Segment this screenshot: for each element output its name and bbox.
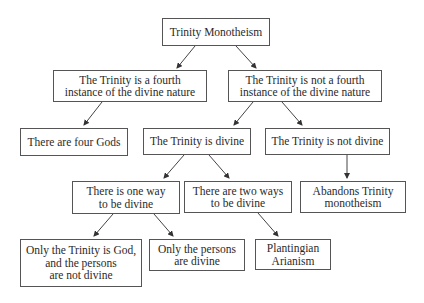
node-label: The Trinity is divine [150,135,244,148]
node-two-ways: There are two ways to be divine [184,181,292,213]
edge-root-fourth [177,46,195,68]
node-label: The Trinity is not divine [272,135,384,148]
node-trinity-divine: The Trinity is divine [143,128,251,155]
node-label: There is one way to be divine [87,185,166,210]
node-label: Trinity Monotheism [170,26,263,39]
edge-oneway-onlytrinity [94,214,113,236]
node-one-way: There is one way to be divine [72,181,180,214]
node-trinity-not-divine: The Trinity is not divine [265,128,390,155]
edge-divine-oneway [164,155,184,178]
edge-root-notfourth [236,46,256,68]
node-only-persons: Only the persons are divine [149,239,245,271]
node-plantingian: Plantingian Arianism [255,239,331,270]
node-label: Plantingian Arianism [267,242,319,267]
node-label: Only the Trinity is God, and the persons… [26,244,136,282]
node-abandons: Abandons Trinity monotheism [300,181,406,213]
edge-twoways-plantingian [258,213,278,236]
edge-fourth-fourgods [84,102,102,125]
edge-divine-twoways [209,155,229,178]
node-trinity-monotheism: Trinity Monotheism [162,18,270,46]
node-label: The Trinity is a fourth instance of the … [65,74,195,99]
node-label: Abandons Trinity monotheism [313,185,394,210]
node-label: The Trinity is not a fourth instance of … [240,74,370,99]
node-fourth-instance: The Trinity is a fourth instance of the … [53,70,207,102]
node-not-fourth-instance: The Trinity is not a fourth instance of … [228,70,382,102]
node-label: There are two ways to be divine [193,185,283,210]
edge-notfourth-notdivine [282,102,302,125]
node-label: There are four Gods [28,136,121,149]
node-label: Only the persons are divine [158,243,236,268]
edge-oneway-onlypersons [154,214,173,236]
edge-notfourth-divine [234,102,253,125]
node-four-gods: There are four Gods [20,128,128,156]
node-only-trinity-god: Only the Trinity is God, and the persons… [20,239,142,287]
